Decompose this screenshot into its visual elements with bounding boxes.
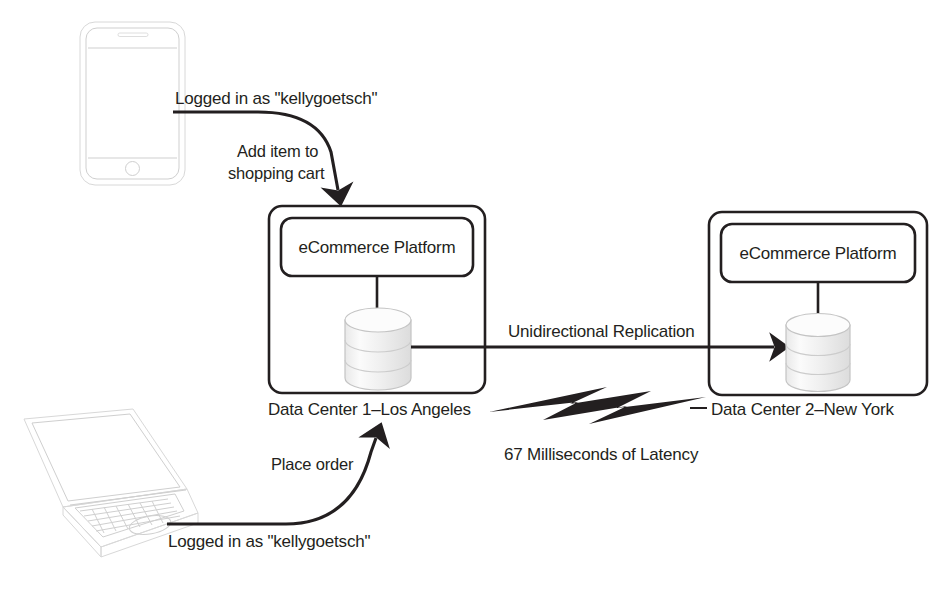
data-center-2: eCommerce Platform (709, 212, 927, 395)
dc1-database-icon (345, 308, 411, 390)
replication-label: Unidirectional Replication (508, 322, 695, 341)
dc1-platform-label: eCommerce Platform (299, 238, 456, 257)
laptop-to-dc1-connector (167, 438, 376, 524)
dc1-caption: Data Center 1–Los Angeles (268, 400, 471, 419)
phone-session-label: Logged in as "kellygoetsch" (175, 89, 377, 108)
dc2-database-icon (786, 314, 850, 392)
latency-label: 67 Milliseconds of Latency (504, 445, 699, 464)
dc2-caption: Data Center 2–New York (711, 400, 894, 419)
phone-action-label-line2: shopping cart (228, 164, 325, 182)
data-center-1: eCommerce Platform (269, 206, 485, 393)
dc2-ecommerce-platform-box: eCommerce Platform (721, 224, 915, 282)
diagram-canvas: Logged in as "kellygoetsch" Add item to … (0, 0, 951, 596)
smartphone-icon (80, 22, 185, 185)
lightning-bolt-icon (489, 387, 706, 424)
diagram-svg: Logged in as "kellygoetsch" Add item to … (0, 0, 951, 596)
phone-action-label-line1: Add item to (237, 142, 318, 160)
laptop-session-label: Logged in as "kellygoetsch" (168, 532, 370, 551)
laptop-action-label: Place order (271, 455, 354, 473)
dc1-ecommerce-platform-box: eCommerce Platform (281, 218, 473, 276)
dc2-platform-label: eCommerce Platform (740, 244, 897, 263)
